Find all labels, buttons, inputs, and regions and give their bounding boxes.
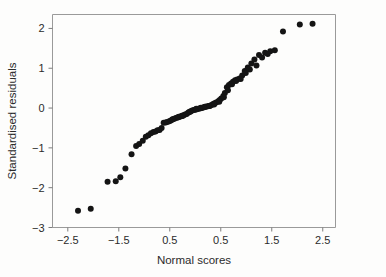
data-point	[122, 166, 128, 172]
data-point	[280, 29, 286, 35]
data-point	[113, 178, 119, 184]
x-tick-label-4: 1.5	[264, 234, 279, 246]
data-point	[265, 51, 271, 57]
y-tick-label-0: −3	[32, 222, 45, 234]
data-point	[251, 56, 257, 62]
y-tick-label-2: −1	[32, 142, 45, 154]
data-point	[75, 208, 81, 214]
x-tick-label-5: 2.5	[315, 234, 330, 246]
data-point	[117, 174, 123, 180]
data-point	[129, 151, 135, 157]
data-point	[297, 21, 303, 27]
x-tick-label-0: −2.5	[57, 234, 79, 246]
x-tick-label-3: 0.5	[213, 234, 228, 246]
data-point	[105, 179, 111, 185]
qq-plot-figure: −2.5−1.50.50.51.52.5−3−2−1012Normal scor…	[0, 0, 386, 277]
data-point	[225, 87, 231, 93]
data-point	[259, 55, 265, 61]
data-point	[247, 66, 253, 72]
scatter-plot-canvas: −2.5−1.50.50.51.52.5−3−2−1012Normal scor…	[0, 0, 386, 277]
x-tick-label-2: 0.5	[162, 234, 177, 246]
data-point	[211, 101, 217, 107]
data-point	[180, 113, 186, 119]
y-tick-label-4: 1	[38, 62, 44, 74]
data-point	[221, 94, 227, 100]
data-point-group	[75, 21, 316, 214]
y-tick-label-1: −2	[32, 182, 45, 194]
data-point	[238, 76, 244, 82]
data-point	[187, 109, 193, 115]
data-point	[88, 206, 94, 212]
data-point	[216, 99, 222, 105]
y-tick-label-5: 2	[38, 22, 44, 34]
y-tick-label-3: 0	[38, 102, 44, 114]
y-axis-title: Standardised residuals	[6, 62, 18, 179]
x-tick-label-1: −1.5	[108, 234, 130, 246]
x-axis-title: Normal scores	[157, 254, 231, 266]
plot-frame	[53, 15, 336, 228]
data-point	[310, 21, 316, 27]
data-point	[253, 62, 259, 68]
data-point	[272, 47, 278, 53]
data-point	[170, 116, 176, 122]
data-point	[159, 125, 165, 131]
